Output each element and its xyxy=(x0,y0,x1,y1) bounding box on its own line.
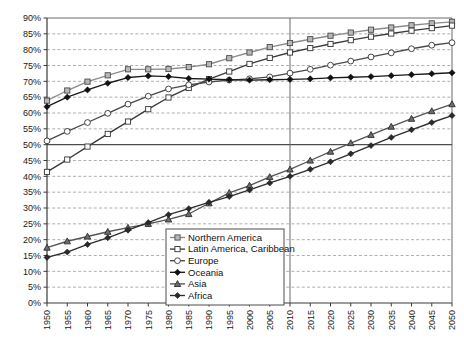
y-tick-label: 40% xyxy=(23,172,41,182)
data-point-marker xyxy=(287,40,292,45)
y-axis-labels: 0%5%10%15%20%25%30%35%40%45%50%55%60%65%… xyxy=(23,13,47,308)
data-point-marker xyxy=(388,50,394,56)
y-tick-label: 55% xyxy=(23,124,41,134)
data-point-marker xyxy=(85,120,91,126)
data-point-marker xyxy=(125,119,130,124)
data-point-marker xyxy=(267,55,272,60)
data-point-marker xyxy=(368,54,374,60)
x-tick-label: 2015 xyxy=(306,310,316,330)
legend-label: Latin America, Caribbean xyxy=(188,243,295,254)
legend-label: Africa xyxy=(188,290,213,301)
line-chart: 0%5%10%15%20%25%30%35%40%45%50%55%60%65%… xyxy=(0,0,464,348)
data-point-marker xyxy=(308,45,313,50)
data-point-marker xyxy=(449,40,455,46)
data-point-marker xyxy=(389,31,394,36)
data-point-marker xyxy=(64,128,70,134)
data-point-marker xyxy=(85,79,90,84)
x-tick-label: 1985 xyxy=(184,310,194,330)
data-point-marker xyxy=(348,58,354,64)
legend-label: Northern America xyxy=(188,232,263,243)
y-tick-label: 90% xyxy=(23,13,41,23)
data-point-marker xyxy=(175,247,180,252)
x-tick-label: 2020 xyxy=(326,310,336,330)
data-point-marker xyxy=(247,50,252,55)
data-point-marker xyxy=(166,95,171,100)
x-tick-label: 2045 xyxy=(427,310,437,330)
data-point-marker xyxy=(409,23,414,28)
data-point-marker xyxy=(328,62,334,68)
y-tick-label: 35% xyxy=(23,187,41,197)
x-tick-label: 2050 xyxy=(447,310,457,330)
data-point-marker xyxy=(348,30,353,35)
data-point-marker xyxy=(409,28,414,33)
y-tick-label: 20% xyxy=(23,235,41,245)
data-point-marker xyxy=(227,56,232,61)
data-point-marker xyxy=(308,37,313,42)
data-point-marker xyxy=(85,144,90,149)
y-tick-label: 65% xyxy=(23,92,41,102)
data-point-marker xyxy=(44,138,50,144)
x-tick-label: 1950 xyxy=(42,310,52,330)
legend-label: Europe xyxy=(188,255,219,266)
x-tick-label: 1975 xyxy=(144,310,154,330)
x-axis-labels: 1950195519601965197019751980198519901995… xyxy=(42,303,457,330)
y-tick-label: 45% xyxy=(23,156,41,166)
data-point-marker xyxy=(409,46,415,52)
data-point-marker xyxy=(267,45,272,50)
x-tick-label: 2025 xyxy=(346,310,356,330)
data-point-marker xyxy=(429,42,435,48)
y-tick-label: 15% xyxy=(23,251,41,261)
data-point-marker xyxy=(227,69,232,74)
y-tick-label: 60% xyxy=(23,108,41,118)
data-point-marker xyxy=(65,157,70,162)
data-point-marker xyxy=(166,86,172,92)
y-tick-label: 5% xyxy=(28,282,41,292)
data-point-marker xyxy=(206,62,211,67)
x-tick-label: 1995 xyxy=(225,310,235,330)
data-point-marker xyxy=(429,26,434,31)
data-point-marker xyxy=(125,101,131,107)
x-tick-label: 1965 xyxy=(103,310,113,330)
x-tick-label: 2010 xyxy=(285,310,295,330)
data-point-marker xyxy=(328,33,333,38)
data-point-marker xyxy=(328,41,333,46)
data-point-marker xyxy=(166,66,171,71)
x-tick-label: 2035 xyxy=(387,310,397,330)
y-tick-label: 50% xyxy=(23,140,41,150)
x-tick-label: 1990 xyxy=(204,310,214,330)
y-tick-label: 30% xyxy=(23,203,41,213)
legend-item-latin-america-caribbean[interactable]: Latin America, Caribbean xyxy=(170,243,295,254)
data-point-marker xyxy=(368,27,373,32)
y-tick-label: 0% xyxy=(28,298,41,308)
chart-container: 0%5%10%15%20%25%30%35%40%45%50%55%60%65%… xyxy=(0,0,464,348)
data-point-marker xyxy=(389,25,394,30)
x-tick-label: 1955 xyxy=(63,310,73,330)
data-point-marker xyxy=(44,169,49,174)
y-tick-label: 75% xyxy=(23,61,41,71)
data-point-marker xyxy=(186,82,192,88)
data-point-marker xyxy=(348,38,353,43)
data-point-marker xyxy=(287,50,292,55)
y-tick-label: 70% xyxy=(23,77,41,87)
y-tick-label: 80% xyxy=(23,45,41,55)
y-tick-label: 25% xyxy=(23,219,41,229)
data-point-marker xyxy=(368,34,373,39)
data-point-marker xyxy=(287,70,293,76)
data-point-marker xyxy=(65,88,70,93)
x-tick-label: 2040 xyxy=(407,310,417,330)
data-point-marker xyxy=(307,66,313,72)
data-point-marker xyxy=(146,107,151,112)
data-point-marker xyxy=(44,98,49,103)
data-point-marker xyxy=(125,67,130,72)
y-tick-label: 10% xyxy=(23,267,41,277)
legend: Northern AmericaLatin America, Caribbean… xyxy=(166,229,295,305)
data-point-marker xyxy=(105,131,110,136)
data-point-marker xyxy=(247,61,252,66)
data-point-marker xyxy=(449,23,454,28)
data-point-marker xyxy=(146,67,151,72)
y-tick-label: 85% xyxy=(23,29,41,39)
data-point-marker xyxy=(105,110,111,116)
x-tick-label: 2000 xyxy=(245,310,255,330)
data-point-marker xyxy=(175,235,180,240)
data-point-marker xyxy=(186,64,191,69)
